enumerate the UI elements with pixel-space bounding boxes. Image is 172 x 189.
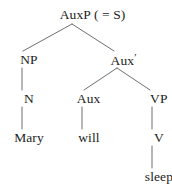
node-np: NP: [6, 39, 37, 80]
node-terminal-will: will: [64, 117, 99, 158]
node-terminal-mary: Mary: [0, 117, 44, 158]
node-terminal-sleep: sleep: [131, 156, 172, 189]
node-np-label: NP: [20, 51, 37, 66]
node-auxp: AuxP ( = S): [47, 0, 126, 34]
node-aux-bar-label: Aux: [111, 52, 135, 67]
node-auxp-label: AuxP ( = S): [60, 6, 126, 21]
prime-mark-icon: ′: [134, 50, 136, 62]
node-v: V: [140, 117, 164, 158]
node-vp: VP: [136, 78, 167, 119]
node-aux-label: Aux: [77, 90, 101, 105]
node-terminal-will-label: will: [78, 129, 99, 144]
syntax-tree-figure: AuxP ( = S) NP Aux′ N Aux VP Mary will V…: [0, 0, 172, 189]
node-aux: Aux: [64, 78, 101, 119]
node-terminal-sleep-label: sleep: [145, 168, 172, 183]
node-vp-label: VP: [150, 90, 167, 105]
node-n-label: N: [24, 90, 34, 105]
node-n: N: [10, 78, 34, 119]
node-aux-bar: Aux′: [97, 38, 136, 80]
node-v-label: V: [154, 129, 164, 144]
node-terminal-mary-label: Mary: [14, 129, 44, 144]
